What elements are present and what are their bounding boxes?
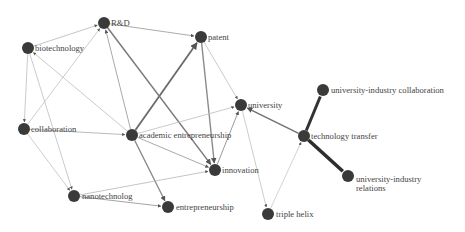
- node-nanotechnology: [68, 190, 80, 202]
- node-entrepreneurship: [162, 201, 174, 213]
- edge-patent-to-innovation: [202, 43, 215, 163]
- node-biotechnology: [22, 42, 34, 54]
- edge-academic_entrepreneurship-to-rd: [106, 30, 131, 129]
- node-innovation: [209, 164, 221, 176]
- edge-biotechnology-to-collaboration: [24, 54, 27, 122]
- keyword-network-diagram: R&Dpatentbiotechnologycollaborationacade…: [0, 0, 465, 232]
- node-academic_entrepreneurship: [126, 129, 138, 141]
- node-collaboration: [18, 123, 30, 135]
- node-label-rd: R&D: [111, 18, 130, 28]
- edge-technology_transfer-to-uic: [306, 96, 320, 130]
- edge-university-to-triple_helix: [242, 111, 266, 207]
- node-technology_transfer: [298, 130, 310, 142]
- node-label-collaboration: collaboration: [31, 124, 77, 134]
- edge-technology_transfer-to-uir: [308, 140, 342, 171]
- node-label-biotechnology: biotechnology: [35, 43, 85, 53]
- labels-layer: R&Dpatentbiotechnologycollaborationacade…: [31, 18, 445, 219]
- node-label-university: university: [248, 100, 283, 110]
- node-university: [235, 99, 247, 111]
- edge-academic_entrepreneurship-to-biotechnology: [33, 52, 127, 131]
- node-triple_helix: [262, 208, 274, 220]
- edge-academic_entrepreneurship-to-innovation: [138, 137, 209, 167]
- node-label-technology_transfer: technology transfer: [311, 131, 378, 141]
- node-uir: [342, 170, 354, 182]
- node-label-triple_helix: triple helix: [276, 209, 314, 219]
- node-label-academic_entrepreneurship: academic entrepreneurship: [139, 130, 231, 140]
- node-label-innovation: innovation: [222, 165, 259, 175]
- node-label-patent: patent: [208, 32, 230, 42]
- node-label-nanotechnology: nanotechnolog: [82, 191, 133, 201]
- edge-academic_entrepreneurship-to-entrepreneurship: [135, 140, 165, 200]
- node-label-entrepreneurship: entrepreneurship: [176, 202, 234, 212]
- edge-rd-to-innovation: [108, 28, 211, 165]
- edge-technology_transfer-to-university: [247, 108, 298, 133]
- edge-patent-to-university: [204, 42, 237, 99]
- node-rd: [98, 17, 110, 29]
- node-uic: [317, 84, 329, 96]
- edge-triple_helix-to-technology_transfer: [271, 142, 302, 208]
- edge-academic_entrepreneurship-to-patent: [135, 43, 197, 130]
- node-label-uic: university-industry collaboration: [331, 85, 445, 95]
- node-patent: [195, 31, 207, 43]
- node-label-uir-line2: relations: [356, 183, 386, 193]
